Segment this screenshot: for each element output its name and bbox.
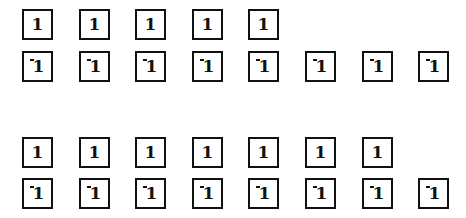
tile-value: 1 (252, 183, 277, 203)
positive-one-tile: 1 (22, 9, 53, 40)
tile-value: 1 (250, 14, 277, 34)
tile-value: 1 (366, 183, 391, 203)
tile-value: 1 (309, 56, 334, 76)
negative-one-tile: 1 (192, 178, 223, 209)
tile-value: 1 (81, 14, 108, 34)
negative-one-tile: 1 (362, 178, 393, 209)
tile-value: 1 (422, 183, 447, 203)
negative-one-tile: 1 (305, 51, 336, 82)
positive-one-tile: 1 (79, 9, 110, 40)
negative-one-tile: 1 (22, 51, 53, 82)
positive-one-tile: 1 (362, 137, 393, 168)
negative-one-tile: 1 (362, 51, 393, 82)
tile-value: 1 (24, 14, 51, 34)
tile-value: 1 (196, 183, 221, 203)
negative-one-tile: 1 (135, 51, 166, 82)
negative-one-tile: 1 (79, 51, 110, 82)
tile-value: 1 (252, 56, 277, 76)
positive-one-tile: 1 (22, 137, 53, 168)
positive-one-tile: 1 (135, 137, 166, 168)
tile-value: 1 (83, 183, 108, 203)
negative-one-tile: 1 (305, 178, 336, 209)
negative-one-tile: 1 (79, 178, 110, 209)
tile-value: 1 (26, 56, 51, 76)
tile-value: 1 (137, 142, 164, 162)
tile-value: 1 (196, 56, 221, 76)
negative-one-tile: 1 (192, 51, 223, 82)
tile-value: 1 (366, 56, 391, 76)
negative-one-tile: 1 (22, 178, 53, 209)
tile-value: 1 (194, 142, 221, 162)
tile-value: 1 (364, 142, 391, 162)
tile-value: 1 (81, 142, 108, 162)
tile-value: 1 (250, 142, 277, 162)
positive-one-tile: 1 (192, 9, 223, 40)
positive-one-tile: 1 (305, 137, 336, 168)
tile-value: 1 (24, 142, 51, 162)
negative-one-tile: 1 (418, 51, 449, 82)
tile-value: 1 (83, 56, 108, 76)
negative-one-tile: 1 (135, 178, 166, 209)
tile-value: 1 (139, 183, 164, 203)
negative-one-tile: 1 (248, 178, 279, 209)
positive-one-tile: 1 (248, 9, 279, 40)
tile-value: 1 (194, 14, 221, 34)
negative-one-tile: 1 (248, 51, 279, 82)
positive-one-tile: 1 (135, 9, 166, 40)
negative-one-tile: 1 (418, 178, 449, 209)
positive-one-tile: 1 (79, 137, 110, 168)
tile-value: 1 (26, 183, 51, 203)
tile-value: 1 (422, 56, 447, 76)
tile-value: 1 (307, 142, 334, 162)
tile-value: 1 (139, 56, 164, 76)
positive-one-tile: 1 (248, 137, 279, 168)
tile-value: 1 (137, 14, 164, 34)
positive-one-tile: 1 (192, 137, 223, 168)
tile-value: 1 (309, 183, 334, 203)
